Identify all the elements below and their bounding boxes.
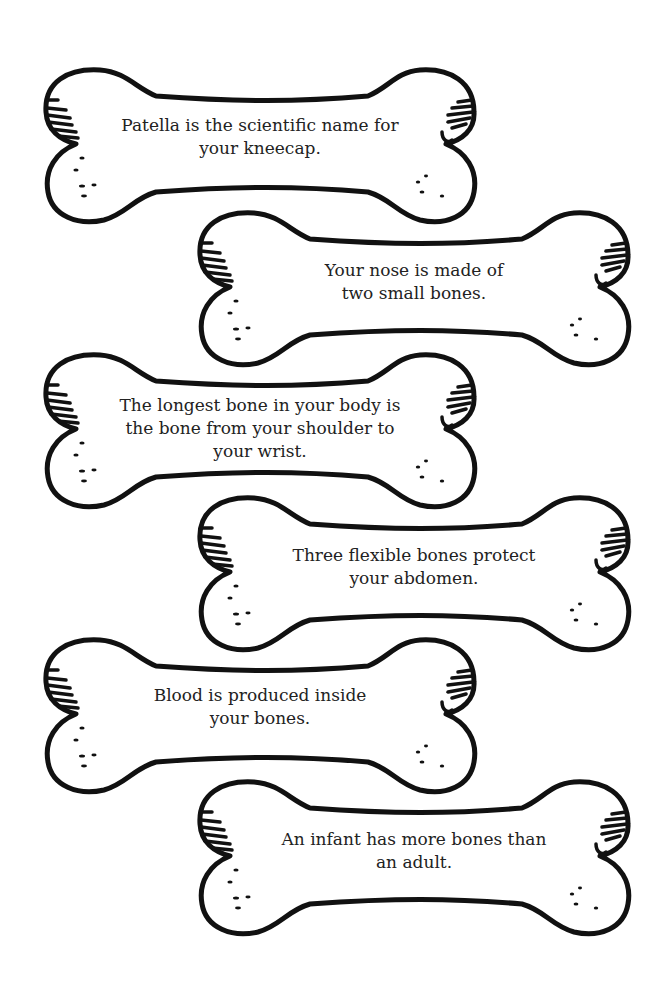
bone-fact-text: Three flexible bones protect your abdome… xyxy=(262,544,566,590)
bone-fact-text: Your nose is made of two small bones. xyxy=(262,259,566,305)
bone-fact-text: An infant has more bones than an adult. xyxy=(262,828,566,874)
bone-fact-text: The longest bone in your body is the bon… xyxy=(108,394,412,463)
bone-card-6: An infant has more bones than an adult. xyxy=(192,772,636,942)
bone-fact-text: Blood is produced inside your bones. xyxy=(108,684,412,730)
bone-fact-text: Patella is the scientific name for your … xyxy=(108,114,412,160)
